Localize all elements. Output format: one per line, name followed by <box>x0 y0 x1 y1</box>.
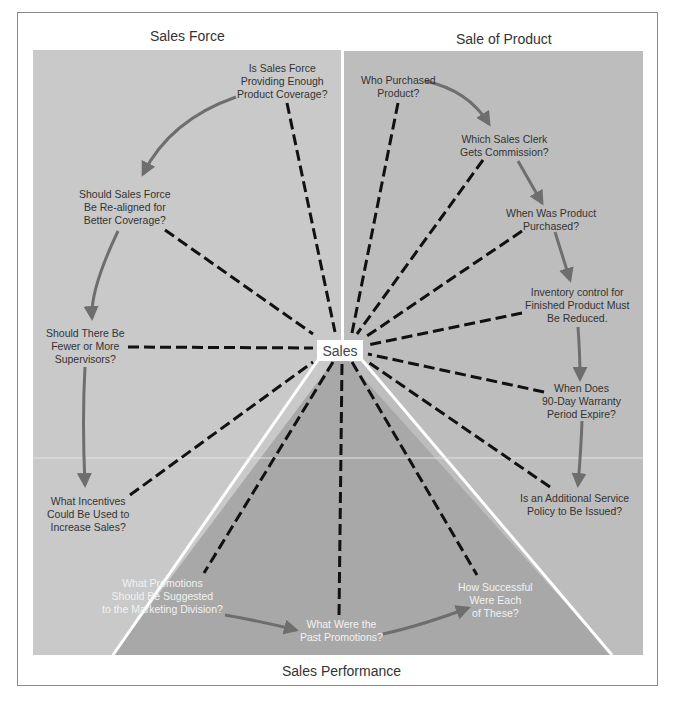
node-sf2: Should Sales Force Be Re-aligned for Bet… <box>79 188 171 227</box>
node-sp2: Which Sales Clerk Gets Commission? <box>460 133 549 159</box>
node-line: Is Sales Force <box>237 62 327 75</box>
node-sf1: Is Sales Force Providing Enough Product … <box>237 62 327 101</box>
node-sp5: When Does 90-Day Warranty Period Expire? <box>542 382 621 421</box>
center-node-sales: Sales <box>317 340 363 361</box>
node-line: Be Reduced. <box>525 312 629 325</box>
node-line: Period Expire? <box>542 408 621 421</box>
node-line: Which Sales Clerk <box>460 133 549 146</box>
node-line: Fewer or More <box>46 340 125 353</box>
node-sf3: Should There Be Fewer or More Supervisor… <box>46 327 125 366</box>
node-line: Providing Enough <box>237 75 327 88</box>
node-line: Should Be Suggested <box>102 590 223 603</box>
node-line: Policy to Be Issued? <box>520 505 629 518</box>
node-perf1: What Promotions Should Be Suggested to t… <box>102 577 223 616</box>
node-sp3: When Was Product Purchased? <box>506 207 596 233</box>
node-sp4: Inventory control for Finished Product M… <box>525 286 629 325</box>
node-line: Who Purchased <box>361 74 436 87</box>
node-line: Product Coverage? <box>237 88 327 101</box>
node-line: Gets Commission? <box>460 146 549 159</box>
node-sp6: Is an Additional Service Policy to Be Is… <box>520 492 629 518</box>
node-perf2: What Were the Past Promotions? <box>300 618 383 644</box>
node-line: Past Promotions? <box>300 631 383 644</box>
node-line: What Incentives <box>47 495 129 508</box>
node-line: Finished Product Must <box>525 299 629 312</box>
node-line: What Promotions <box>102 577 223 590</box>
node-line: Should Sales Force <box>79 188 171 201</box>
node-line: Product? <box>361 87 436 100</box>
node-line: How Successful <box>458 581 533 594</box>
node-line: Better Coverage? <box>79 214 171 227</box>
node-line: What Were the <box>300 618 383 631</box>
node-line: Is an Additional Service <box>520 492 629 505</box>
node-line: Be Re-aligned for <box>79 201 171 214</box>
node-line: Should There Be <box>46 327 125 340</box>
node-line: of These? <box>458 607 533 620</box>
node-line: Were Each <box>458 594 533 607</box>
node-line: Purchased? <box>506 220 596 233</box>
node-sp1: Who Purchased Product? <box>361 74 436 100</box>
node-line: Supervisors? <box>46 353 125 366</box>
node-line: When Was Product <box>506 207 596 220</box>
node-line: 90-Day Warranty <box>542 395 621 408</box>
node-perf3: How Successful Were Each of These? <box>458 581 533 620</box>
node-line: Increase Sales? <box>47 521 129 534</box>
node-line: Could Be Used to <box>47 508 129 521</box>
node-sf4: What Incentives Could Be Used to Increas… <box>47 495 129 534</box>
node-line: When Does <box>542 382 621 395</box>
node-line: to the Marketing Division? <box>102 603 223 616</box>
node-line: Inventory control for <box>525 286 629 299</box>
